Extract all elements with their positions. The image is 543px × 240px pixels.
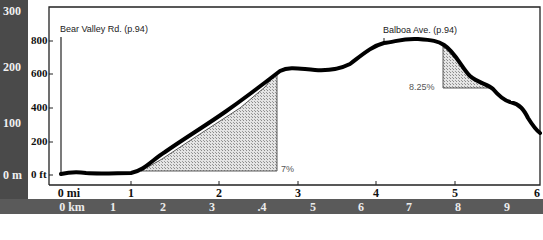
start-annotation: Bear Valley Rd. (p.94) <box>60 24 148 34</box>
mi-tick-3: 3 <box>295 186 301 201</box>
mi-tick-0: 0 mi <box>58 186 80 201</box>
km-tick-7: 7 <box>406 200 412 214</box>
mi-tick-5: 5 <box>452 186 458 201</box>
peak-annotation: Balboa Ave. (p.94) <box>383 25 457 35</box>
km-tick-4: .4 <box>258 200 267 214</box>
ft-tick-0: 0 ft <box>31 168 47 180</box>
km-tick-9: 9 <box>504 200 510 214</box>
mi-tick-6: 6 <box>534 186 540 201</box>
ft-tick-600: 600 <box>31 67 48 79</box>
grade-825-label: 8.25% <box>409 82 435 92</box>
km-tick-1: 1 <box>110 200 116 214</box>
ft-tick-800: 800 <box>31 34 48 46</box>
grade-7-label: 7% <box>281 164 294 174</box>
km-tick-8: 8 <box>455 200 461 214</box>
mi-tick-2: 2 <box>216 186 222 201</box>
km-tick-3: 3 <box>209 200 215 214</box>
km-tick-5: 5 <box>310 200 316 214</box>
km-tick-2: 2 <box>160 200 166 214</box>
ft-tick-400: 400 <box>31 101 48 113</box>
mi-tick-1: 1 <box>128 186 134 201</box>
km-tick-6: 6 <box>358 200 364 214</box>
mi-tick-4: 4 <box>373 186 379 201</box>
ft-tick-200: 200 <box>31 135 48 147</box>
km-tick-0: 0 km <box>59 200 85 214</box>
